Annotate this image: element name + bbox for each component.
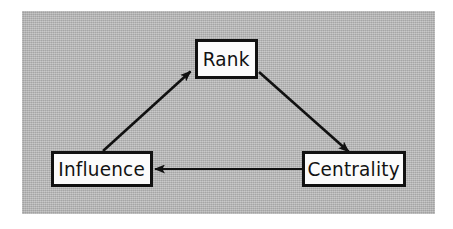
node-centrality[interactable]: Centrality — [302, 151, 406, 187]
node-influence[interactable]: Influence — [51, 151, 153, 187]
node-influence-label: Influence — [59, 160, 146, 179]
node-rank-label: Rank — [203, 50, 250, 69]
node-rank[interactable]: Rank — [195, 39, 258, 79]
figure-root: Rank Influence Centrality — [0, 0, 453, 229]
node-centrality-label: Centrality — [308, 160, 400, 179]
